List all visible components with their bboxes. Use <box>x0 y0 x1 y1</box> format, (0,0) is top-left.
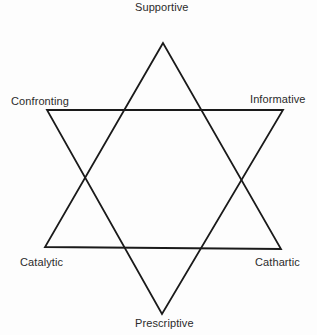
upward-triangle <box>45 43 281 249</box>
downward-triangle <box>47 110 283 314</box>
label-informative: Informative <box>250 93 306 105</box>
label-supportive: Supportive <box>135 1 189 13</box>
label-cathartic: Cathartic <box>255 256 300 268</box>
label-prescriptive: Prescriptive <box>135 317 194 329</box>
six-pointed-star <box>0 0 317 335</box>
label-catalytic: Catalytic <box>20 256 63 268</box>
label-confronting: Confronting <box>11 95 69 107</box>
hexagram-diagram: Supportive Confronting Informative Catal… <box>0 0 317 335</box>
